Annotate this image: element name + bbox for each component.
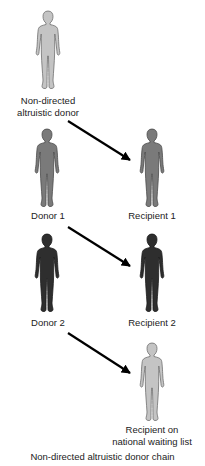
arrow-ndad-to-recipient-1 (68, 121, 130, 160)
arrow-donor-1-to-recipient-2 (68, 227, 130, 266)
arrow-donor-2-to-waitlist-recipient (68, 333, 130, 373)
arrows-layer (0, 0, 205, 466)
